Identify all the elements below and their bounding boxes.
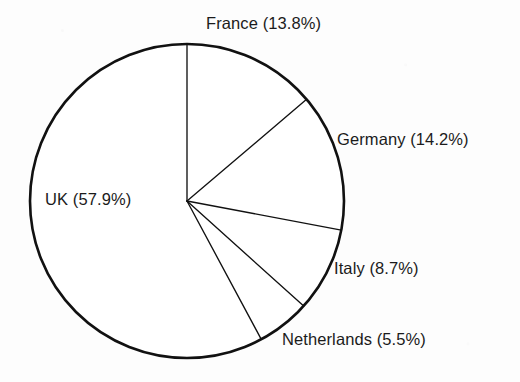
slice-label-uk: UK (57.9%) — [45, 190, 131, 209]
slice-label-italy: Italy (8.7%) — [334, 259, 419, 278]
slice-label-germany: Germany (14.2%) — [337, 130, 469, 149]
slice-label-france: France (13.8%) — [206, 14, 321, 33]
slice-label-netherlands: Netherlands (5.5%) — [282, 330, 426, 349]
pie-chart-figure: France (13.8%) Germany (14.2%) Italy (8.… — [0, 0, 520, 382]
